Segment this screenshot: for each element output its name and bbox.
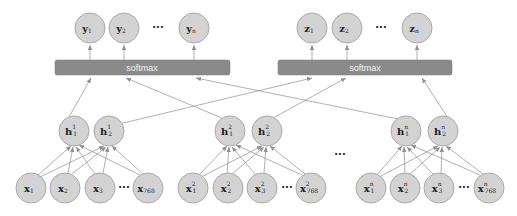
ellipsis: ··· bbox=[152, 22, 163, 33]
input-group-2: x21 x22 x23 ··· x2768 bbox=[178, 173, 326, 203]
svg-text:xn2: xn2 bbox=[398, 180, 409, 194]
input-group-n: xn1 xn2 xn3 ··· xn768 bbox=[356, 173, 504, 203]
svg-text:x21: x21 bbox=[186, 180, 197, 194]
output-node-y2: y2 bbox=[109, 13, 139, 43]
input-node: x1 bbox=[16, 173, 46, 203]
svg-text:hn1: hn1 bbox=[397, 123, 409, 137]
svg-text:x22: x22 bbox=[221, 180, 232, 194]
input-group-1: x1 x2 x3 ··· x768 bbox=[16, 173, 163, 203]
svg-text:h12: h12 bbox=[100, 123, 112, 137]
softmax-layer-y: softmax bbox=[55, 60, 230, 75]
input-node: xn3 bbox=[424, 173, 454, 203]
hidden-group-1: h11 h12 bbox=[59, 116, 124, 146]
output-group-y: y1 y2 ··· yn bbox=[75, 13, 209, 43]
output-node-y1: y1 bbox=[75, 13, 105, 43]
group-ellipsis: ··· bbox=[334, 149, 345, 160]
input-node: x3 bbox=[85, 173, 115, 203]
input-to-hidden-edges-group-1 bbox=[38, 145, 143, 177]
softmax-label: softmax bbox=[126, 63, 158, 73]
svg-text:h11: h11 bbox=[65, 123, 77, 137]
svg-text:h21: h21 bbox=[221, 123, 233, 137]
input-node: x23 bbox=[247, 173, 277, 203]
output-node-zn: zn bbox=[402, 13, 432, 43]
input-node: x2768 bbox=[296, 173, 326, 203]
input-node: xn2 bbox=[390, 173, 420, 203]
hidden-node: h21 bbox=[215, 116, 245, 146]
hidden-node: h12 bbox=[94, 116, 124, 146]
hidden-to-softmax-edges bbox=[69, 78, 448, 124]
softmax-label: softmax bbox=[349, 63, 381, 73]
svg-text:x23: x23 bbox=[255, 180, 266, 194]
svg-text:xn3: xn3 bbox=[432, 180, 443, 194]
hidden-group-n: hn1 hn2 bbox=[391, 116, 458, 146]
svg-text:xn1: xn1 bbox=[364, 180, 375, 194]
svg-text:h22: h22 bbox=[258, 123, 270, 137]
hidden-node: h11 bbox=[59, 116, 89, 146]
ellipsis: ··· bbox=[458, 182, 469, 193]
hidden-node: hn2 bbox=[428, 116, 458, 146]
ellipsis: ··· bbox=[375, 22, 386, 33]
input-node: xn768 bbox=[474, 173, 504, 203]
input-node: x2 bbox=[50, 173, 80, 203]
hidden-node: h22 bbox=[252, 116, 282, 146]
softmax-to-output-edges bbox=[90, 45, 417, 60]
output-node-z1: z1 bbox=[297, 13, 327, 43]
ellipsis: ··· bbox=[281, 182, 292, 193]
svg-text:hn2: hn2 bbox=[434, 123, 446, 137]
input-to-hidden-edges-group-2 bbox=[199, 145, 305, 177]
hidden-group-2: h21 h22 bbox=[215, 116, 282, 146]
input-node: x768 bbox=[133, 173, 163, 203]
softmax-layer-z: softmax bbox=[278, 60, 452, 75]
output-node-yn: yn bbox=[179, 13, 209, 43]
input-node: xn1 bbox=[356, 173, 386, 203]
input-to-hidden-edges-group-3 bbox=[377, 145, 483, 177]
hidden-node: hn1 bbox=[391, 116, 421, 146]
input-node: x22 bbox=[213, 173, 243, 203]
output-node-z2: z2 bbox=[332, 13, 362, 43]
network-diagram: softmax softmax y1 y2 ··· yn z1 z2 ··· bbox=[0, 0, 517, 216]
ellipsis: ··· bbox=[118, 182, 129, 193]
input-node: x21 bbox=[178, 173, 208, 203]
output-group-z: z1 z2 ··· zn bbox=[297, 13, 432, 43]
